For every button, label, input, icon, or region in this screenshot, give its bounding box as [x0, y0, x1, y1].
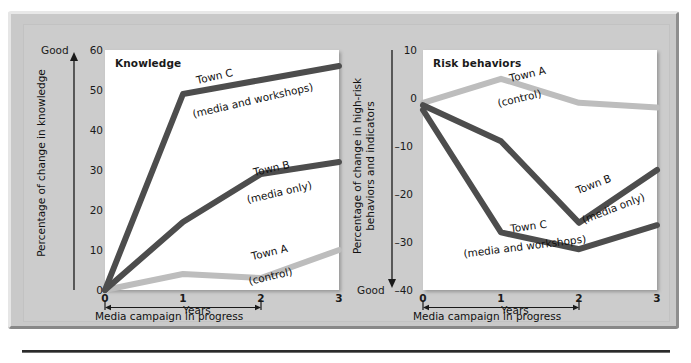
x-tick-risk-3: 3 [647, 292, 667, 304]
bottom-divider-rule [22, 350, 670, 353]
panel-risk-behaviors: Percentage of change in high-risk behavi… [345, 24, 670, 322]
figure-inner-panel: Percentage of change in knowledge Good 6… [23, 24, 670, 322]
y-tick-risk-neg40: –40 [387, 284, 413, 296]
plot-area-risk: Risk behaviors Town A (control) Town B [423, 50, 657, 290]
good-direction-arrow-down [385, 50, 399, 288]
panel-knowledge: Percentage of change in knowledge Good 6… [23, 24, 348, 322]
y-tick-knowledge-20: 20 [77, 204, 103, 216]
y-tick-knowledge-60: 60 [77, 44, 103, 56]
y-tick-knowledge-10: 10 [77, 244, 103, 256]
y-tick-risk-0: 0 [391, 92, 417, 104]
y-tick-risk-neg10: –10 [387, 140, 413, 152]
campaign-label-knowledge: Media campaign in progress [95, 310, 243, 322]
plot-area-knowledge: Knowledge Town C (media and workshops) T… [105, 50, 339, 290]
y-axis-title-risk-line1: Percentage of change in high-risk [351, 40, 364, 292]
campaign-label-risk: Media campaign in progress [413, 310, 561, 322]
y-tick-knowledge-40: 40 [77, 124, 103, 136]
figure-outer-frame: Percentage of change in knowledge Good 6… [8, 11, 679, 329]
series-lines-risk [423, 50, 657, 290]
figure-root: Percentage of change in knowledge Good 6… [0, 0, 691, 363]
y-tick-risk-neg30: –30 [387, 236, 413, 248]
y-tick-knowledge-30: 30 [77, 164, 103, 176]
y-axis-title-risk-line2: behaviors and indicators [364, 40, 377, 292]
y-axis-title-knowledge: Percentage of change in knowledge [35, 44, 47, 282]
y-tick-risk-10: 10 [391, 44, 417, 56]
good-label-knowledge: Good [41, 44, 69, 56]
y-tick-knowledge-50: 50 [77, 84, 103, 96]
y-tick-risk-neg20: –20 [387, 188, 413, 200]
good-label-risk: Good [357, 284, 385, 296]
